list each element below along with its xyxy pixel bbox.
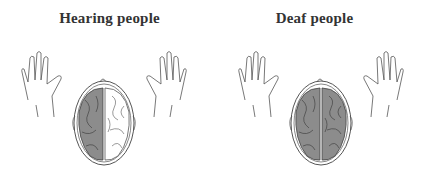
hearing-people-panel: Hearing people: [0, 0, 211, 171]
left-hand-icon: [22, 52, 61, 118]
right-hand-icon: [147, 52, 186, 118]
deaf-brain-illustration: [211, 0, 423, 171]
deaf-people-panel: Deaf people: [211, 0, 422, 171]
right-hand-icon: [364, 52, 403, 118]
left-hand-icon: [239, 52, 278, 118]
hearing-brain-illustration: [0, 0, 211, 171]
